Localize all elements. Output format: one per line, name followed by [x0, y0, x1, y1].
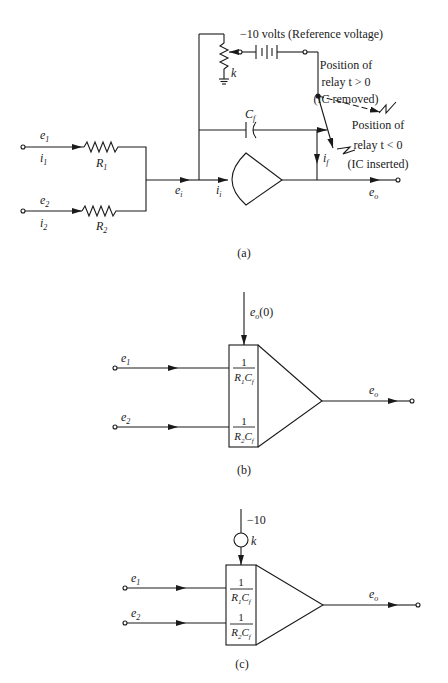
potentiometer-k	[220, 34, 228, 79]
svg-text:R2Cf: R2Cf	[230, 626, 252, 641]
svg-text:(IC inserted): (IC inserted)	[348, 157, 409, 171]
svg-text:1: 1	[241, 415, 247, 427]
svg-text:relay t < 0: relay t < 0	[353, 138, 402, 152]
svg-text:eo: eo	[369, 587, 378, 603]
panel-c	[123, 509, 420, 645]
caption-a: (a)	[237, 246, 250, 260]
input-terminal-2	[21, 209, 25, 213]
svg-text:R1: R1	[95, 156, 107, 172]
resistor-r2	[82, 180, 146, 216]
output-terminal-a	[396, 178, 400, 182]
svg-text:1: 1	[238, 611, 244, 623]
integrator-triangle-c	[256, 565, 323, 645]
svg-text:ei: ei	[175, 183, 183, 199]
svg-text:e1: e1	[131, 571, 140, 587]
svg-text:(IC removed): (IC removed)	[314, 92, 379, 106]
capacitor-cf	[246, 122, 317, 138]
panel-b-labels: eo(0) e1 e2 1 R1Cf 1 R2Cf eo (b)	[121, 305, 378, 477]
svg-text:−10: −10	[247, 513, 266, 527]
svg-text:relay t > 0: relay t > 0	[321, 75, 370, 89]
potentiometer-k-c	[234, 533, 248, 547]
svg-text:e1: e1	[121, 351, 130, 367]
svg-text:i2: i2	[40, 216, 47, 232]
svg-text:eo(0): eo(0)	[250, 305, 273, 321]
potentiometer-label: k	[231, 66, 237, 80]
caption-c: (c)	[235, 657, 248, 671]
svg-text:eo: eo	[369, 383, 378, 399]
battery-icon	[256, 45, 277, 59]
svg-text:if: if	[323, 151, 330, 167]
svg-text:Position of: Position of	[320, 58, 372, 72]
integrator-triangle-b	[258, 345, 322, 447]
svg-text:Position of: Position of	[352, 118, 404, 132]
resistor-r1	[84, 142, 146, 180]
svg-text:ii: ii	[216, 183, 222, 199]
svg-text:R1Cf: R1Cf	[230, 591, 252, 606]
svg-text:Cf: Cf	[245, 107, 257, 123]
input-terminal-1	[21, 145, 25, 149]
svg-text:1: 1	[238, 576, 244, 588]
svg-text:e1: e1	[40, 128, 49, 144]
svg-text:e2: e2	[131, 606, 140, 622]
svg-text:R1Cf: R1Cf	[233, 371, 255, 386]
svg-text:R2: R2	[95, 219, 107, 235]
svg-text:R2Cf: R2Cf	[233, 430, 255, 445]
caption-b: (b)	[237, 463, 251, 477]
svg-text:e2: e2	[40, 193, 49, 209]
svg-text:1: 1	[241, 356, 247, 368]
svg-text:i1: i1	[40, 151, 47, 167]
reference-voltage-label: −10 volts (Reference voltage)	[240, 27, 383, 41]
panel-c-labels: −10 k e1 e2 1 R1Cf 1 R2Cf eo (c)	[131, 513, 378, 671]
amplifier-a	[232, 153, 282, 205]
svg-text:e2: e2	[121, 410, 130, 426]
svg-text:eo: eo	[369, 185, 378, 201]
svg-text:k: k	[251, 534, 257, 548]
integrator-circuit-figure: −10 volts (Reference voltage) k Cf Posit…	[0, 0, 448, 683]
